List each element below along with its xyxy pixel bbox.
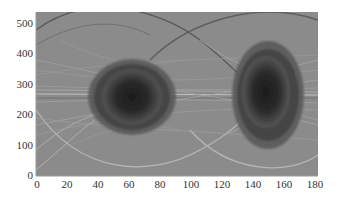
y-tick-500: 500: [17, 17, 34, 29]
y-axis-ticks: 0 100 200 300 400 500: [17, 17, 34, 181]
x-tick-140: 140: [245, 178, 262, 190]
plot-area: [36, 8, 318, 176]
left-dark-blob: [88, 59, 176, 135]
sinogram-chart: 0 100 200 300 400 500 0 20 40 60 80 100 …: [0, 0, 343, 197]
x-tick-20: 20: [62, 178, 74, 190]
x-axis-ticks: 0 20 40 60 80 100 120 140 160 180: [34, 178, 324, 190]
x-tick-80: 80: [155, 178, 167, 190]
x-tick-120: 120: [214, 178, 231, 190]
y-tick-400: 400: [17, 47, 34, 59]
right-dark-blob: [232, 41, 304, 149]
y-tick-100: 100: [17, 139, 34, 151]
x-tick-160: 160: [276, 178, 293, 190]
x-tick-180: 180: [307, 178, 324, 190]
y-tick-300: 300: [17, 78, 34, 90]
x-tick-0: 0: [34, 178, 40, 190]
y-tick-200: 200: [17, 108, 34, 120]
y-tick-0: 0: [28, 169, 34, 181]
x-tick-100: 100: [183, 178, 200, 190]
x-tick-60: 60: [124, 178, 136, 190]
x-tick-40: 40: [93, 178, 105, 190]
